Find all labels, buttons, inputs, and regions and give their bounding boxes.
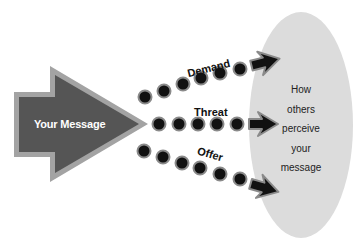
perception-line: others (250, 100, 352, 120)
perception-line: How (250, 80, 352, 100)
offer-dots (138, 145, 247, 186)
threat-dots (153, 118, 244, 131)
perception-text: How others perceive your message (250, 80, 352, 178)
your-message-label: Your Message (34, 118, 134, 130)
perception-line: your (250, 139, 352, 159)
perception-line: message (250, 158, 352, 178)
perception-line: perceive (250, 119, 352, 139)
diagram-canvas: Your Message Demand Threat Offer How oth… (0, 0, 361, 252)
threat-label: Threat (194, 106, 228, 118)
